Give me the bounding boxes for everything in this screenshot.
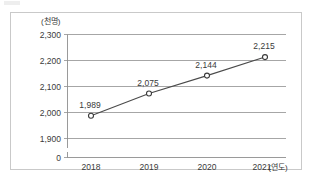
data-label-2018: 1,989	[79, 100, 101, 110]
x-tick-label-2020: 2020	[198, 162, 217, 172]
x-tick-label-2018: 2018	[82, 162, 101, 172]
x-tick-labels: 2018 2019 2020 2021	[82, 162, 272, 172]
data-point-2018[interactable]	[89, 113, 94, 118]
y-tick-label-0: 2,300	[40, 30, 62, 40]
plot-area-wrapper: (천명) 2,300 2,200 2,100 2,000 1,900 0	[0, 0, 315, 183]
x-tick-label-2019: 2019	[140, 162, 159, 172]
y-tick-label-3: 2,000	[40, 108, 62, 118]
chart-figure: (천명) 2,300 2,200 2,100 2,000 1,900 0	[0, 0, 315, 183]
data-point-2019[interactable]	[147, 91, 152, 96]
line-chart: (천명) 2,300 2,200 2,100 2,000 1,900 0	[0, 0, 315, 183]
data-point-labels: 1,989 2,075 2,144 2,215	[79, 41, 275, 110]
y-tick-label-2: 2,100	[40, 82, 62, 92]
y-tick-label-1: 2,200	[40, 56, 62, 66]
x-axis-unit-label: (연도)	[268, 163, 288, 172]
y-tick-label-4: 1,900	[40, 134, 62, 144]
data-label-2021: 2,215	[253, 41, 275, 51]
y-tick-labels: 2,300 2,200 2,100 2,000 1,900 0	[40, 30, 62, 163]
data-label-2019: 2,075	[137, 78, 159, 88]
y-axis-unit-label: (천명)	[41, 16, 61, 26]
y-tickmarks	[64, 35, 67, 158]
data-label-2020: 2,144	[195, 60, 217, 70]
data-point-2021[interactable]	[263, 55, 268, 60]
y-tick-label-5: 0	[56, 153, 61, 163]
data-point-2020[interactable]	[205, 73, 210, 78]
